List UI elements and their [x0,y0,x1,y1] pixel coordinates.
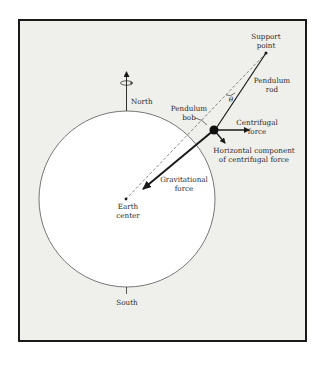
earth-center-label-2: center [116,211,140,220]
south-label: South [116,298,138,307]
pendulum-rod-label: Pendulum [254,76,291,85]
support-point-label-2: point [257,41,276,50]
pendulum-diagram: Support point Pendulum rod θ Pendulum bo… [0,0,321,370]
horizontal-component-label-2: of centrifugal force [219,155,289,164]
centrifugal-force-label: Centrifugal [236,118,278,127]
support-point-dot [265,52,268,55]
theta-label: θ [229,95,234,104]
earth-center-label: Earth [118,202,139,211]
pendulum-bob-label-2: bob [182,113,196,122]
gravitational-force-label-2: force [175,184,194,193]
support-point-label: Support [251,32,281,41]
gravitational-force-label: Gravitational [160,175,208,184]
horizontal-component-label: Horizontal component [213,146,294,155]
centrifugal-force-label-2: force [248,127,267,136]
earth-center-dot [125,198,128,201]
north-label: North [131,97,153,106]
pendulum-bob [210,126,219,135]
pendulum-bob-label: Pendulum [171,104,208,113]
pendulum-rod-label-2: rod [266,85,279,94]
